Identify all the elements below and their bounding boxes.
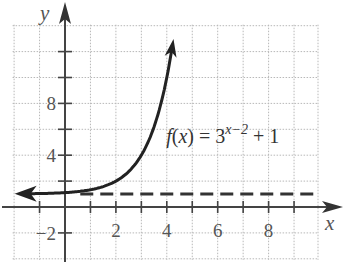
- function-graph: xy 2468−248 f(x) = 3x−2 + 1: [0, 0, 344, 262]
- x-tick-label: 6: [213, 220, 223, 241]
- x-tick-label: 4: [162, 220, 172, 241]
- y-axis-label: y: [38, 1, 50, 25]
- y-tick-label: 8: [47, 93, 57, 114]
- x-tick-label: 2: [111, 220, 121, 241]
- data-series: [15, 39, 319, 202]
- function-curve: [26, 49, 172, 194]
- x-axis-label: x: [324, 211, 335, 235]
- annotations: f(x) = 3x−2 + 1: [166, 122, 279, 148]
- y-tick-label: 4: [47, 145, 57, 166]
- tick-labels: 2468−248: [36, 93, 274, 244]
- x-tick-label: 8: [264, 220, 274, 241]
- y-tick-label: −2: [36, 223, 56, 244]
- function-formula-label: f(x) = 3x−2 + 1: [166, 122, 279, 148]
